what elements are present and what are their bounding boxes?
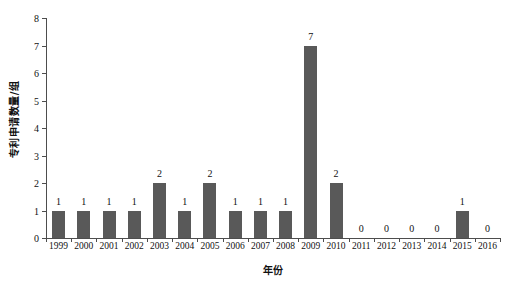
bar xyxy=(229,211,242,239)
y-axis-tick-label: 3 xyxy=(34,150,39,161)
x-axis-tick-label: 2001 xyxy=(100,241,119,251)
bar xyxy=(128,211,141,239)
bar xyxy=(279,211,292,239)
x-axis-tick-label: 2007 xyxy=(251,241,270,251)
bar-value-label: 0 xyxy=(434,223,439,234)
y-axis-tick xyxy=(42,128,46,129)
x-axis-tick-label: 2005 xyxy=(200,241,219,251)
x-axis-tick-label: 2014 xyxy=(427,241,446,251)
bar-value-label: 1 xyxy=(56,196,61,207)
y-axis-title: 专利申请数量/组 xyxy=(2,0,26,238)
bar xyxy=(153,183,166,238)
bar-value-label: 1 xyxy=(460,196,465,207)
bar-value-label: 0 xyxy=(384,223,389,234)
y-axis-tick xyxy=(42,18,46,19)
bar-value-label: 1 xyxy=(233,196,238,207)
y-axis-tick-label: 5 xyxy=(34,95,39,106)
y-axis-tick-label: 7 xyxy=(34,40,39,51)
y-axis-tick xyxy=(42,211,46,212)
y-axis-tick xyxy=(42,101,46,102)
x-axis-tick-label: 2013 xyxy=(402,241,421,251)
x-axis-tick-label: 2009 xyxy=(301,241,320,251)
x-axis-tick-label: 2008 xyxy=(276,241,295,251)
bar-value-label: 1 xyxy=(81,196,86,207)
bar xyxy=(330,183,343,238)
x-axis-tick-labels: 1999200020012002200320042005200620072008… xyxy=(46,241,500,257)
bar xyxy=(77,211,90,239)
bar xyxy=(254,211,267,239)
x-axis-tick xyxy=(500,238,501,242)
y-axis-tick xyxy=(42,183,46,184)
plot-area: 012345678 111121211172000010 xyxy=(46,18,500,238)
patent-applications-bar-chart: 专利申请数量/组 012345678 111121211172000010 19… xyxy=(0,0,527,288)
y-axis-tick xyxy=(42,156,46,157)
y-axis-tick-label: 0 xyxy=(34,233,39,244)
bar-value-label: 2 xyxy=(207,168,212,179)
bar xyxy=(103,211,116,239)
bar-value-label: 1 xyxy=(258,196,263,207)
x-axis-tick-label: 2012 xyxy=(377,241,396,251)
bar-value-label: 2 xyxy=(334,168,339,179)
bar xyxy=(456,211,469,239)
bar-value-label: 1 xyxy=(132,196,137,207)
bar-value-label: 1 xyxy=(283,196,288,207)
x-axis-tick-label: 1999 xyxy=(49,241,68,251)
x-axis-tick-label: 2015 xyxy=(453,241,472,251)
bar xyxy=(203,183,216,238)
y-axis-line xyxy=(46,18,47,238)
y-axis-tick-label: 1 xyxy=(34,205,39,216)
bar xyxy=(304,46,317,239)
y-axis-tick-label: 4 xyxy=(34,123,39,134)
bar xyxy=(52,211,65,239)
x-axis-title: 年份 xyxy=(46,262,500,277)
x-axis-tick-label: 2016 xyxy=(478,241,497,251)
bar-value-label: 0 xyxy=(485,223,490,234)
x-axis-tick-label: 2004 xyxy=(175,241,194,251)
y-axis-tick xyxy=(42,73,46,74)
bar-value-label: 0 xyxy=(359,223,364,234)
x-axis-tick-label: 2003 xyxy=(150,241,169,251)
y-axis-tick-label: 6 xyxy=(34,68,39,79)
x-axis-tick-label: 2002 xyxy=(125,241,144,251)
x-axis-tick-label: 2011 xyxy=(352,241,371,251)
x-axis-tick-label: 2010 xyxy=(327,241,346,251)
y-axis-tick xyxy=(42,46,46,47)
x-axis-tick-label: 2000 xyxy=(74,241,93,251)
bar-value-label: 1 xyxy=(182,196,187,207)
y-axis-title-label: 专利申请数量/组 xyxy=(7,80,22,158)
bar-value-label: 1 xyxy=(107,196,112,207)
x-axis-tick-label: 2006 xyxy=(226,241,245,251)
bar-value-label: 0 xyxy=(409,223,414,234)
y-axis-tick-label: 8 xyxy=(34,13,39,24)
bar xyxy=(178,211,191,239)
bar-value-label: 2 xyxy=(157,168,162,179)
y-axis-tick-label: 2 xyxy=(34,178,39,189)
bar-value-label: 7 xyxy=(308,31,313,42)
